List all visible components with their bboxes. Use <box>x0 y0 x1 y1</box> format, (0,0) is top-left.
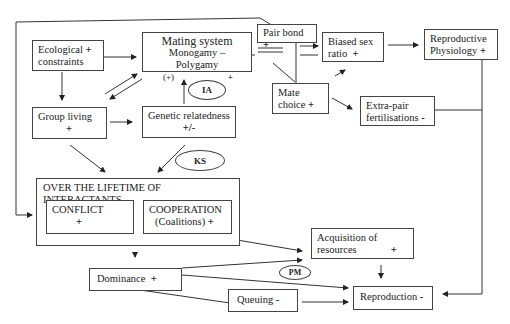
node-mating-system: Mating system Monogamy – Polygamy (+) + <box>142 32 252 72</box>
label: CONFLICT <box>52 204 103 215</box>
label: Queuing <box>237 294 273 305</box>
sign: + <box>480 45 486 56</box>
node-reproductive-physiology: Reproductive Physiology + <box>424 29 498 60</box>
label: Genetic relatedness <box>148 110 230 121</box>
sign: + <box>52 216 82 227</box>
node-mate-choice: Mate choice + <box>272 83 329 114</box>
sign: + <box>208 216 214 227</box>
label: Biased sex <box>328 36 373 47</box>
label: Ecological <box>38 44 83 55</box>
node-queuing: Queuing - <box>228 289 298 312</box>
node-group-living: Group living + <box>32 107 107 139</box>
label: Pair bond <box>263 27 304 38</box>
label: Mate <box>278 87 300 98</box>
title: Mating system <box>147 35 247 47</box>
subtitle: Monogamy – Polygamy <box>147 47 247 71</box>
node-pair-bond: Pair bond + <box>257 24 317 43</box>
sign: + <box>86 44 92 55</box>
oval-ia: IA <box>188 80 226 100</box>
oval-ks: KS <box>175 150 225 171</box>
label: Reproductive <box>430 33 487 44</box>
node-acquisition-of-resources: Acquisition of resources+ <box>311 228 414 259</box>
label: Reproduction <box>360 291 417 302</box>
sign: + <box>308 99 314 110</box>
node-conflict: CONFLICT + <box>46 200 134 234</box>
label: Physiology <box>430 45 477 56</box>
sign: - <box>420 291 424 302</box>
sign-left: (+) <box>163 71 174 83</box>
label: COOPERATION <box>149 204 222 215</box>
label: Extra-pair <box>366 100 409 111</box>
sign: + <box>357 244 397 255</box>
oval-pm: PM <box>279 265 311 280</box>
node-cooperation: COOPERATION (Coalitions) + <box>143 200 232 234</box>
sign: + <box>151 273 157 284</box>
label: Acquisition of <box>317 232 377 243</box>
sign: +/- <box>183 122 195 133</box>
label: Dominance <box>97 273 145 284</box>
label: choice <box>278 99 305 110</box>
label: resources <box>317 244 357 255</box>
node-dominance: Dominance + <box>89 268 182 291</box>
label: Group living <box>38 111 92 122</box>
sublabel: (Coalitions) <box>149 216 205 227</box>
sign: + <box>353 48 359 59</box>
sign-right: + <box>228 71 233 83</box>
node-genetic-relatedness: Genetic relatedness +/- <box>142 106 236 138</box>
sign: + <box>38 123 72 134</box>
node-ecological-constraints: Ecological + constraints <box>32 40 104 71</box>
node-reproduction: Reproduction - <box>353 286 433 310</box>
label: ratio <box>328 48 347 59</box>
sign: - <box>276 294 280 305</box>
node-extra-pair-fertilisations: Extra-pair fertilisations - <box>360 96 435 126</box>
sign: + <box>263 39 269 50</box>
sign: - <box>421 112 425 123</box>
node-biased-sex-ratio: Biased sex ratio + <box>322 32 384 62</box>
label: fertilisations <box>366 112 419 123</box>
label: constraints <box>38 56 84 67</box>
